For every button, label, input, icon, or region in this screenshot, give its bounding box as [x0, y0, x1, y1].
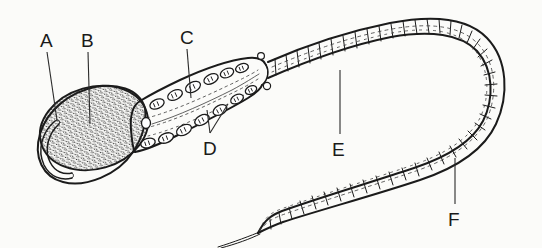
mitochondria-lower-row [140, 84, 259, 150]
diagram-canvas: A B C D E F [0, 0, 542, 248]
tail-segment-rungs [270, 19, 497, 229]
label-E: E [332, 139, 345, 160]
label-D: D [203, 138, 217, 159]
nucleus [30, 73, 158, 182]
sperm-head [30, 73, 158, 183]
tail-endpiece-edge [221, 234, 260, 248]
spermatozoon-figure: A B C D E F [0, 0, 542, 248]
tail-outer-margin [258, 19, 505, 233]
label-F: F [448, 209, 460, 230]
label-B: B [81, 30, 94, 51]
tail-endpiece [218, 231, 262, 247]
axial-filament-proximal-ring [142, 118, 151, 129]
annulus-knob-lower [263, 82, 270, 89]
label-A: A [40, 30, 53, 51]
tail-axial-fibres [259, 26, 494, 232]
annulus-knobs [258, 53, 271, 90]
label-C: C [180, 27, 194, 48]
acrosomal-crescent-end [72, 173, 74, 178]
annulus-knob-upper [258, 53, 265, 60]
nucleus-body [30, 73, 158, 182]
sperm-midpiece [131, 53, 271, 152]
